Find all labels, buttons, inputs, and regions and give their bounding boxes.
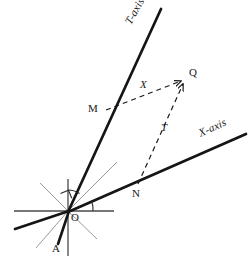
origin-heavy-rays <box>15 211 69 244</box>
segment-nq-dashed <box>138 84 183 184</box>
origin-ray-bundle <box>14 162 117 256</box>
t-axis-line <box>68 9 161 212</box>
coordinate-construction <box>106 81 183 184</box>
point-label-q: Q <box>189 67 197 78</box>
point-label-o: O <box>71 212 79 223</box>
ray-thick-left <box>15 211 69 229</box>
ray-diagonal-upleft <box>40 183 68 211</box>
point-label-n: N <box>132 188 140 199</box>
x-axis-line <box>68 134 246 212</box>
segment-label-x: X <box>140 79 147 90</box>
segment-label-t: T <box>161 122 167 133</box>
point-label-m: M <box>88 103 98 114</box>
point-label-a: A <box>52 243 60 254</box>
geometry-figure: T-axis X-axis O M N Q A X T <box>0 0 250 266</box>
right-angle-marker <box>61 190 72 198</box>
